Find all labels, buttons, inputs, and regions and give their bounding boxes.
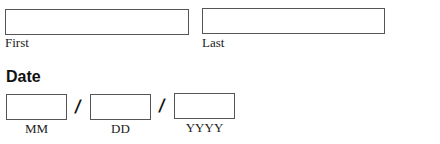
first-name-label: First [5, 36, 29, 50]
day-label: DD [90, 122, 151, 136]
month-input[interactable] [6, 94, 67, 120]
month-label: MM [6, 122, 67, 136]
date-separator: / [74, 96, 82, 116]
first-name-input[interactable] [5, 9, 189, 35]
date-heading: Date [6, 68, 41, 86]
year-label: YYYY [174, 121, 235, 135]
day-input[interactable] [90, 94, 151, 120]
date-separator: / [158, 95, 166, 115]
last-name-input[interactable] [202, 8, 385, 34]
last-name-label: Last [202, 36, 224, 50]
year-input[interactable] [174, 93, 235, 119]
